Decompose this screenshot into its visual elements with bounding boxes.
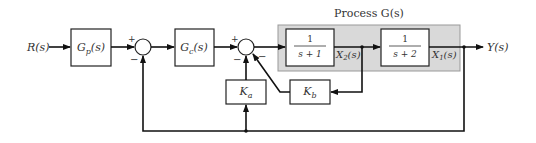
svg-text:−: − <box>233 54 241 65</box>
junction-feedback <box>244 129 248 133</box>
svg-text:1: 1 <box>402 34 408 44</box>
svg-text:s + 2: s + 2 <box>393 49 417 59</box>
process-block-2[interactable]: 1 s + 2 <box>381 29 429 66</box>
svg-text:−: − <box>258 51 266 62</box>
svg-text:Gp(s): Gp(s) <box>77 41 105 56</box>
svg-text:−: − <box>130 54 138 65</box>
svg-text:+: + <box>128 34 136 44</box>
svg-text:+: + <box>231 34 239 44</box>
block-diagram: Process G(s) R(s) Gp(s) + − Gc(s) + − − … <box>0 0 536 143</box>
svg-text:Gc(s): Gc(s) <box>180 41 208 56</box>
ka-block[interactable]: Ka <box>226 80 266 104</box>
svg-text:s + 1: s + 1 <box>298 49 322 59</box>
output-label: Y(s) <box>487 41 509 54</box>
summing-junction-2: + − − <box>231 34 266 65</box>
kb-block[interactable]: Kb <box>290 80 330 104</box>
process-title: Process G(s) <box>334 7 404 20</box>
svg-text:1: 1 <box>307 34 313 44</box>
summing-junction-1: + − <box>128 34 151 65</box>
input-label: R(s) <box>26 41 50 54</box>
gc-block[interactable]: Gc(s) <box>175 29 214 66</box>
gp-block[interactable]: Gp(s) <box>71 29 111 66</box>
process-block-1[interactable]: 1 s + 1 <box>286 29 334 66</box>
